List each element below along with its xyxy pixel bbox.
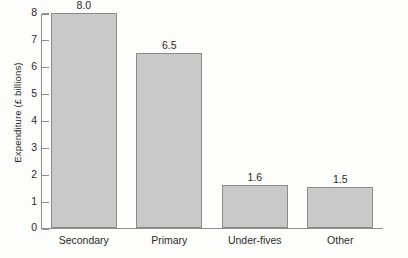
y-tick-5: 5 <box>42 94 49 95</box>
x-axis-line <box>41 228 383 229</box>
plot-area: 012345678 8.06.51.61.5 <box>41 14 383 229</box>
y-tick-label: 7 <box>17 33 37 46</box>
y-tick-label: 6 <box>17 60 37 73</box>
bar-value-label: 8.0 <box>76 0 91 11</box>
x-category-label: Under-fives <box>228 234 282 246</box>
y-tick-2: 2 <box>42 175 49 176</box>
bar-under-fives: 1.6 <box>222 185 288 228</box>
y-tick-3: 3 <box>42 148 49 149</box>
y-tick-label: 2 <box>17 168 37 181</box>
bar-value-label: 6.5 <box>162 39 177 51</box>
y-tick-8: 8 <box>42 13 49 14</box>
y-tick-label: 8 <box>17 6 37 19</box>
bar-primary: 6.5 <box>136 53 202 228</box>
bar-value-label: 1.5 <box>333 173 348 185</box>
x-category-label: Primary <box>151 234 187 246</box>
bar-secondary: 8.0 <box>51 13 117 228</box>
y-tick-1: 1 <box>42 202 49 203</box>
x-category-label: Other <box>327 234 353 246</box>
bar-chart-figure: Expenditure (£ billions) 012345678 8.06.… <box>0 0 408 258</box>
y-tick-label: 0 <box>17 221 37 234</box>
y-tick-label: 3 <box>17 141 37 154</box>
y-tick-label: 5 <box>17 87 37 100</box>
y-tick-label: 1 <box>17 195 37 208</box>
bar-other: 1.5 <box>307 187 373 227</box>
y-tick-label: 4 <box>17 114 37 127</box>
x-category-label: Secondary <box>59 234 109 246</box>
y-tick-7: 7 <box>42 40 49 41</box>
y-tick-4: 4 <box>42 121 49 122</box>
y-tick-6: 6 <box>42 67 49 68</box>
bar-value-label: 1.6 <box>247 171 262 183</box>
y-tick-0: 0 <box>42 228 49 229</box>
